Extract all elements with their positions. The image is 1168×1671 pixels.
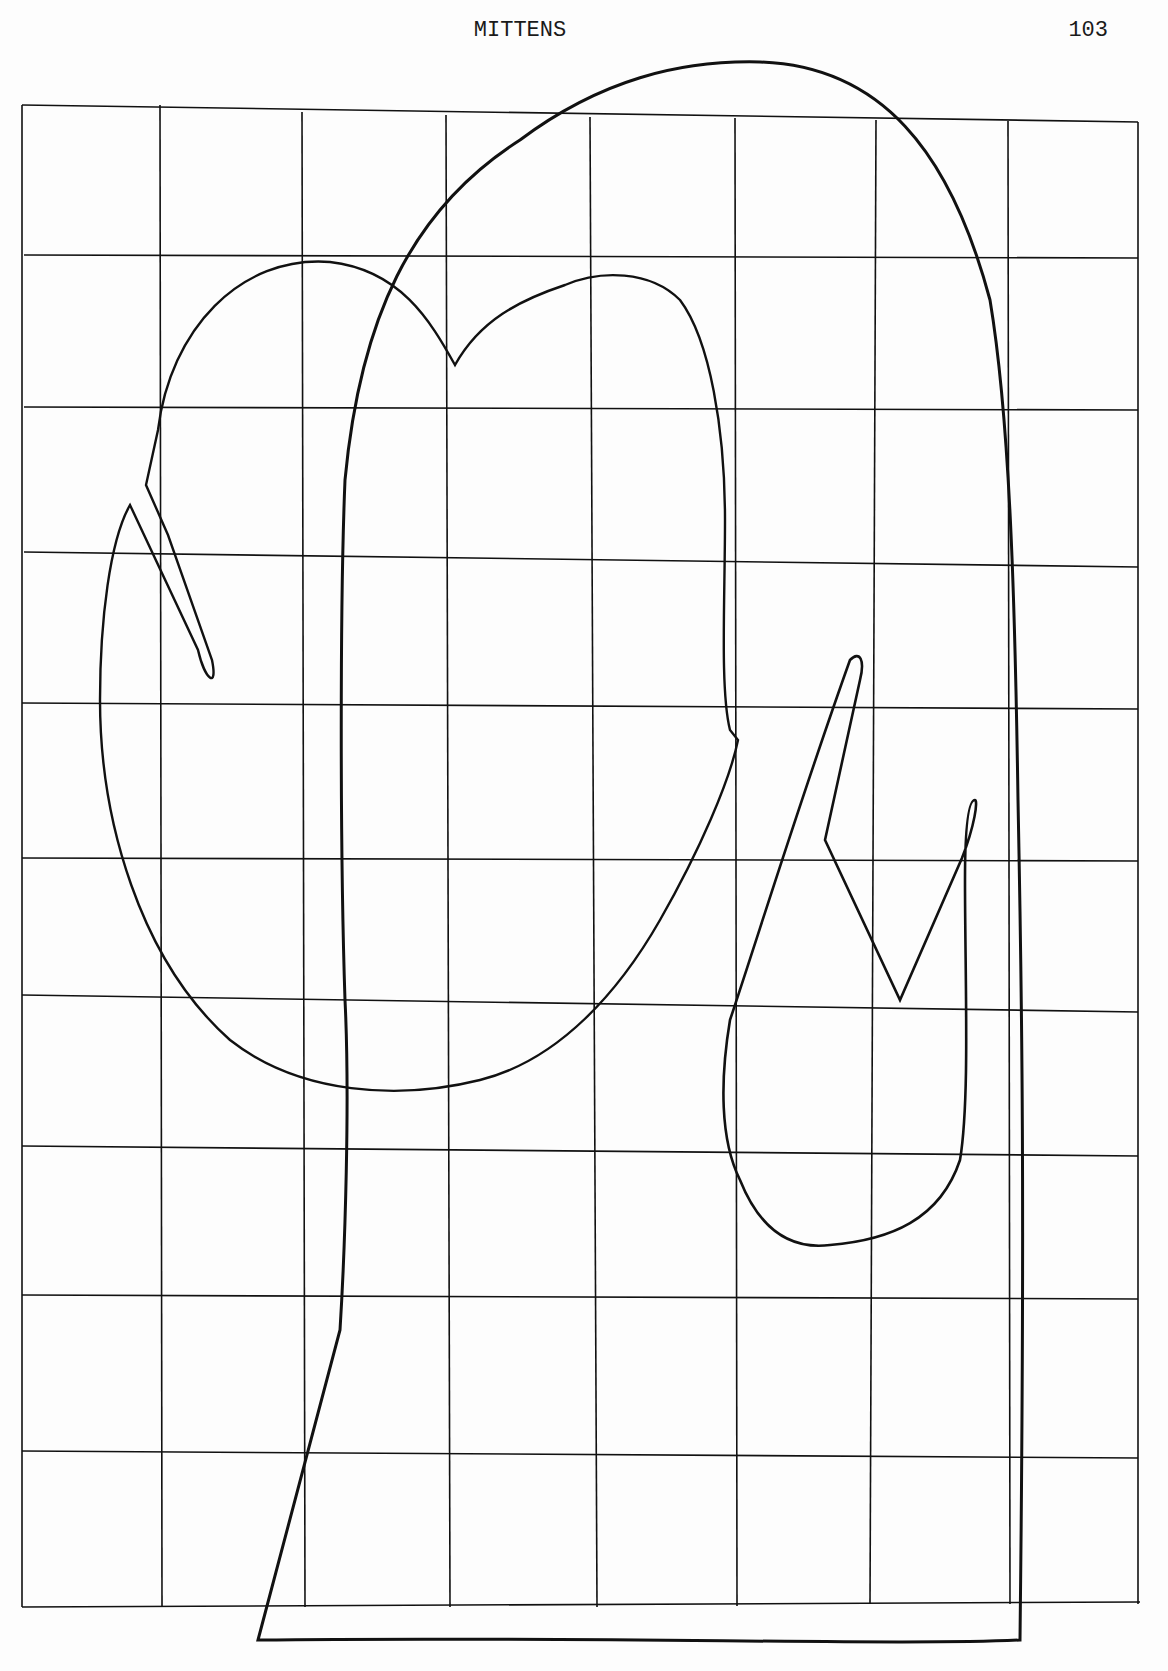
grid — [22, 105, 1140, 1607]
thumb-gusset-outline — [723, 656, 976, 1246]
pattern-diagram — [0, 0, 1168, 1671]
mitten-palm-outline — [100, 262, 738, 1091]
mitten-back-outline — [258, 62, 1023, 1642]
